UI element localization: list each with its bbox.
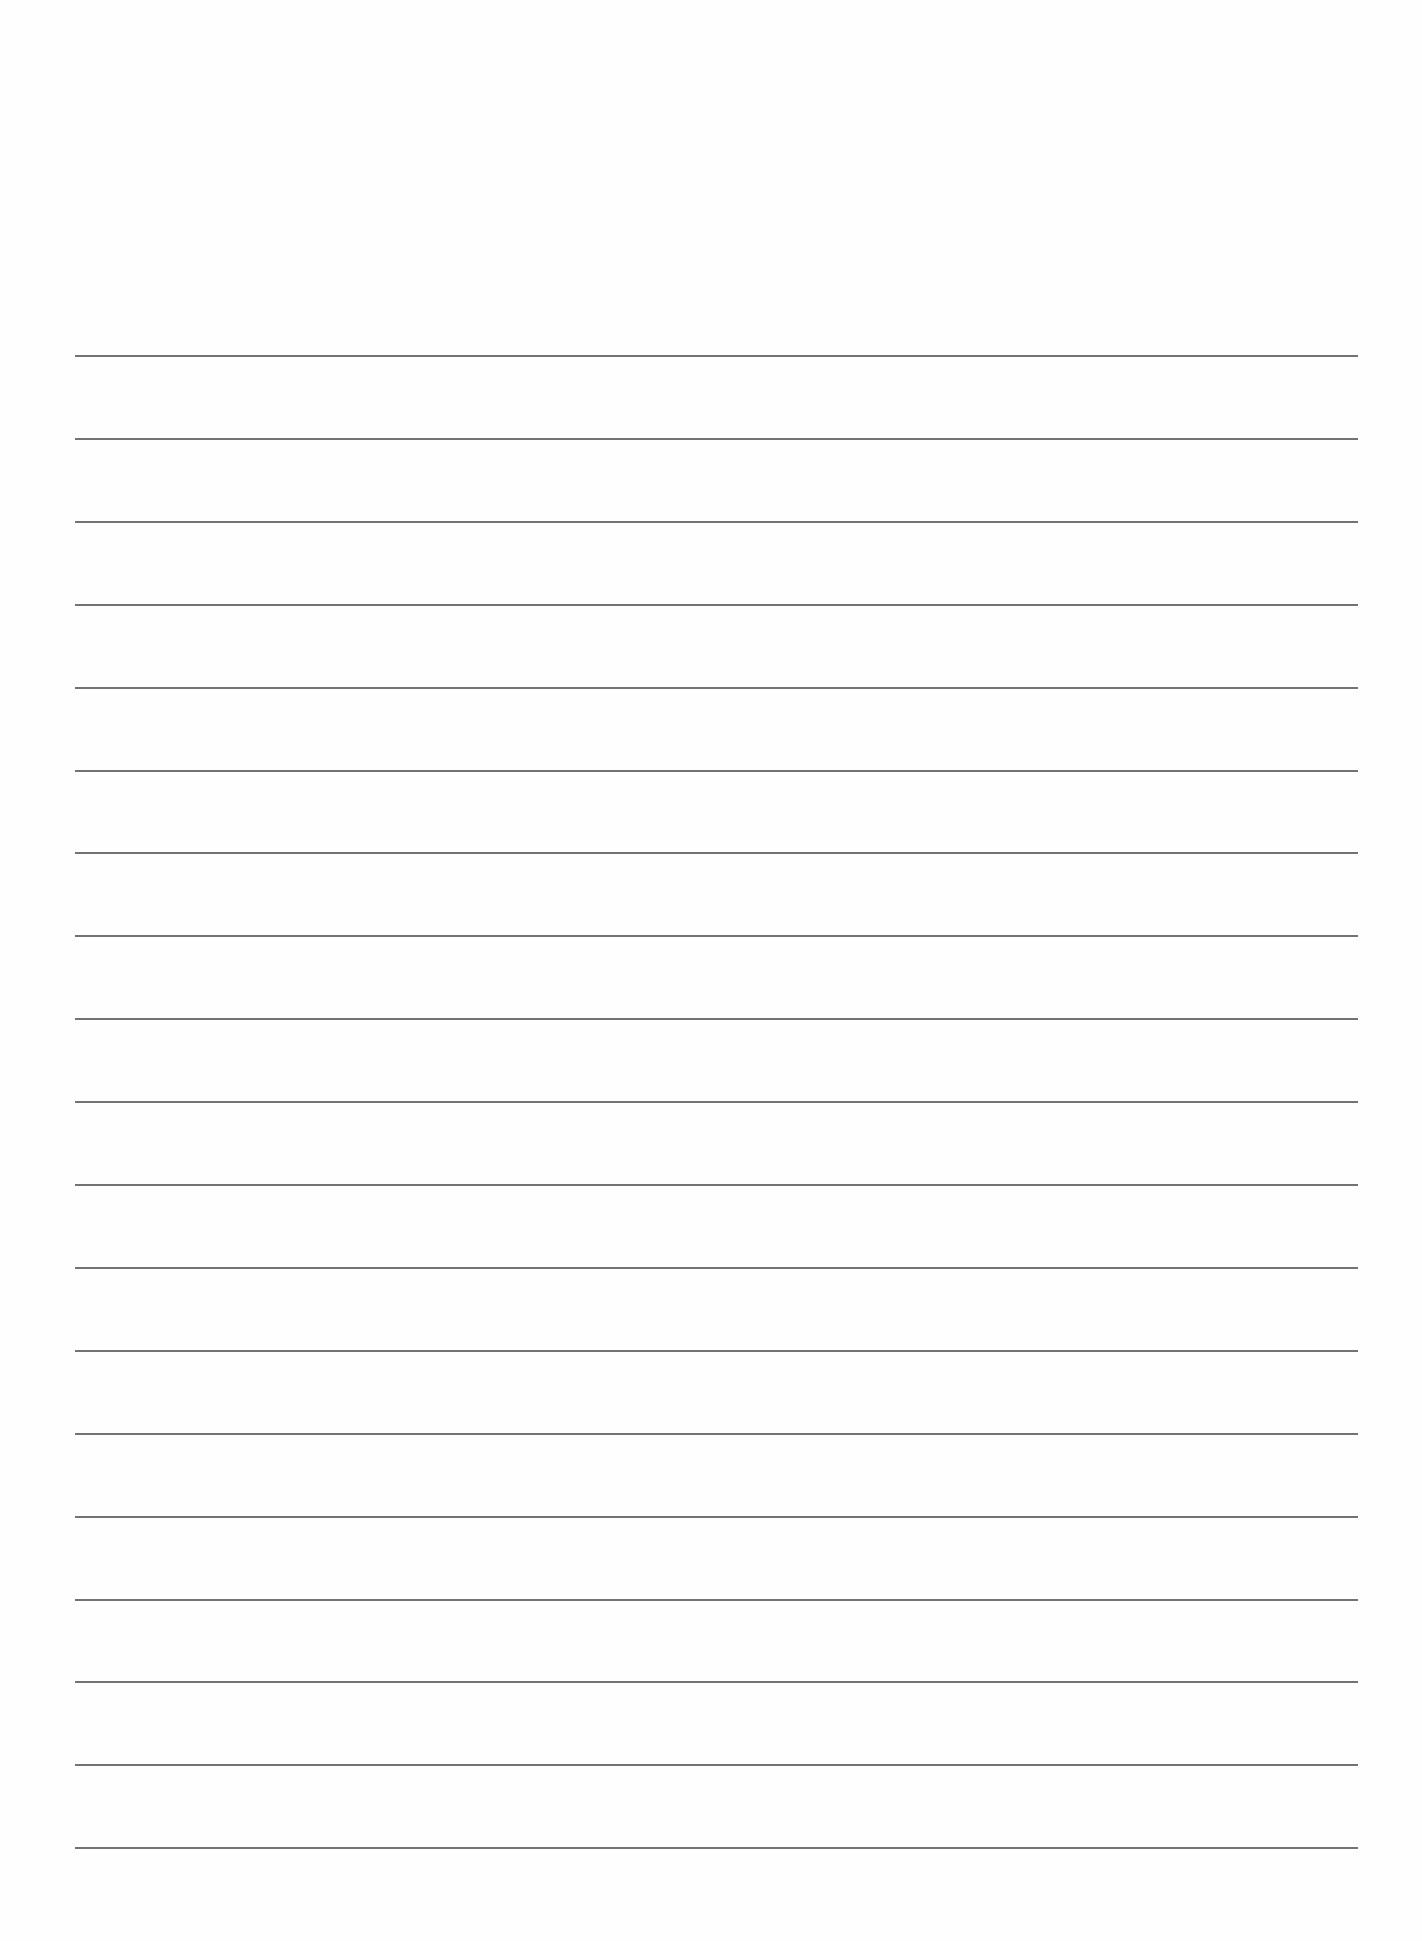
- ruled-line: [75, 770, 1358, 772]
- ruled-line: [75, 852, 1358, 854]
- ruled-line: [75, 1681, 1358, 1683]
- ruled-line: [75, 687, 1358, 689]
- ruled-line: [75, 438, 1358, 440]
- ruled-line: [75, 1516, 1358, 1518]
- ruled-line: [75, 1184, 1358, 1186]
- ruled-line: [75, 1433, 1358, 1435]
- lined-paper-page: [0, 0, 1422, 1941]
- ruled-line: [75, 1764, 1358, 1766]
- ruled-line: [75, 1018, 1358, 1020]
- ruled-line: [75, 1599, 1358, 1601]
- ruled-line: [75, 1267, 1358, 1269]
- ruled-line: [75, 1101, 1358, 1103]
- ruled-line: [75, 604, 1358, 606]
- ruled-line: [75, 935, 1358, 937]
- ruled-line: [75, 521, 1358, 523]
- ruled-line: [75, 355, 1358, 357]
- ruled-line: [75, 1847, 1358, 1849]
- ruled-line: [75, 1350, 1358, 1352]
